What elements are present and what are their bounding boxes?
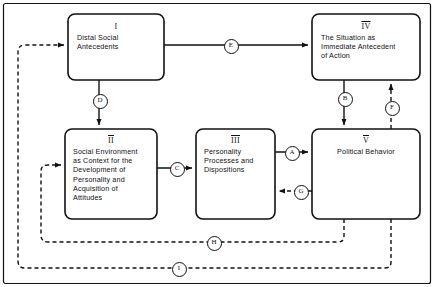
edge-label-F: F	[385, 101, 400, 116]
edge-label-B: B	[338, 92, 353, 107]
edge-label-C: C	[170, 162, 185, 177]
box-5-outline	[312, 129, 420, 219]
box-2-outline	[65, 129, 157, 219]
edge-label-E: E	[224, 39, 239, 54]
diagram-canvas: I Distal Social Antecedents IV The Situa…	[0, 0, 434, 287]
edge-label-G: G	[294, 185, 309, 200]
box-3-outline	[196, 129, 275, 219]
box-4-outline	[312, 14, 420, 80]
box-1-outline	[68, 14, 164, 80]
edge-label-D: D	[93, 94, 108, 109]
edge-label-I: I	[172, 262, 187, 277]
edge-label-H: H	[207, 236, 222, 251]
edge-label-A: A	[285, 146, 300, 161]
